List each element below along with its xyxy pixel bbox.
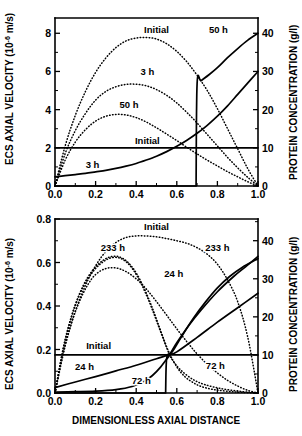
y-axis-right-title-bottom: PROTEIN CONCENTRATION (g/l) xyxy=(288,237,299,392)
x-tick-label: 0.8 xyxy=(210,395,225,407)
y-tick-label-right: 20 xyxy=(262,104,274,116)
y-axis-left-title-bottom-tail: m/s) xyxy=(4,238,15,261)
curve-label-concentration-233h: 233 h xyxy=(205,242,229,253)
y-tick-label-right: 10 xyxy=(262,349,274,361)
x-tick-label: 0.6 xyxy=(169,188,184,200)
y-tick-label-right: 30 xyxy=(262,273,274,285)
x-tick-label: 0.4 xyxy=(129,188,144,200)
x-tick-label: 0.8 xyxy=(210,188,225,200)
x-tick-label: 0.6 xyxy=(169,395,184,407)
y-tick-label-right: 0 xyxy=(262,180,268,192)
y-axis-left-title-bottom: ECS AXIAL VELOCITY (10-6 m/s) xyxy=(4,238,15,390)
curve-label-concentration-initial: Initial xyxy=(86,340,111,351)
y-tick-label-left: 0 xyxy=(45,180,51,192)
y-tick-label-left: 0.0 xyxy=(36,387,51,399)
curve-label-velocity-3h: 3 h xyxy=(140,66,154,77)
curve-label-velocity-50h: 50 h xyxy=(120,99,139,110)
curve-label-velocity-24h: 24 h xyxy=(164,268,183,279)
y-tick-label-left: 8 xyxy=(45,27,51,39)
x-tick-label: 0.2 xyxy=(88,395,103,407)
y-tick-label-right: 0 xyxy=(262,387,268,399)
two-panel-line-chart: 0.00.20.40.60.81.002468010203040InitialI… xyxy=(0,0,302,436)
curve-label-velocity-initial: Initial xyxy=(144,221,169,232)
curve-label-concentration-initial: Initial xyxy=(135,135,160,146)
y-axis-left-title-bottom-main: ECS AXIAL VELOCITY (10 xyxy=(4,267,15,390)
y-tick-label-left: 0.8 xyxy=(36,213,51,225)
y-tick-label-left: 0.6 xyxy=(36,257,51,269)
x-axis-title: DIMENSIONLESS AXIAL DISTANCE xyxy=(72,415,240,426)
y-tick-label-left: 6 xyxy=(45,65,51,77)
y-tick-label-right: 30 xyxy=(262,65,274,77)
curve-label-concentration-24h: 24 h xyxy=(75,361,94,372)
y-tick-label-right: 20 xyxy=(262,311,274,323)
x-tick-label: 0.2 xyxy=(88,188,103,200)
y-axis-left-title-tail: m/s) xyxy=(4,13,15,36)
figure-container: 0.00.20.40.60.81.002468010203040InitialI… xyxy=(0,0,302,436)
y-tick-label-left: 4 xyxy=(45,104,51,116)
curve-label-concentration-3h: 3 h xyxy=(86,159,100,170)
y-tick-label-left: 2 xyxy=(45,142,51,154)
y-tick-label-left: 0.2 xyxy=(36,344,51,356)
y-tick-label-right: 10 xyxy=(262,142,274,154)
y-axis-left-title-main: ECS AXIAL VELOCITY (10 xyxy=(4,42,15,165)
y-tick-label-right: 40 xyxy=(262,27,274,39)
curve-label-velocity-233h: 233 h xyxy=(101,242,125,253)
y-tick-label-right: 40 xyxy=(262,235,274,247)
curve-label-concentration-72h: 72 h xyxy=(132,375,151,386)
curve-label-velocity-initial: Initial xyxy=(144,24,169,35)
curve-label-concentration-50h: 50 h xyxy=(209,24,228,35)
x-tick-label: 0.4 xyxy=(129,395,144,407)
y-axis-right-title-top: PROTEIN CONCENTRATION (g/l) xyxy=(288,25,299,180)
y-axis-left-title: ECS AXIAL VELOCITY (10-6 m/s) xyxy=(4,13,15,165)
curve-label-velocity-72h: 72 h xyxy=(206,360,225,371)
y-tick-label-left: 0.4 xyxy=(36,300,51,312)
